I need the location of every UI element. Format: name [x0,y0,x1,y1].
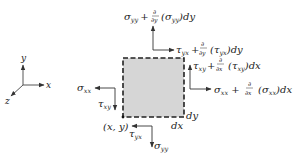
svg-text:∂y: ∂y [199,49,206,57]
svg-text:σyy+: σyy+ [124,11,149,24]
svg-text:∂: ∂ [248,80,251,87]
right-shear-label: τxy+ ∂ ∂x (τxy)dx [193,56,261,73]
origin-label: (x, y) [103,121,129,132]
right-normal-label: σxx+ ∂ ∂x (σxx)dx [214,80,292,97]
svg-text:∂y: ∂y [151,16,158,24]
stress-element-diagram: y x z σyy+ ∂ ∂y (σyy)dy τyx+ ∂ ∂y (τyx)d… [0,0,300,164]
svg-text:∂: ∂ [201,40,204,47]
svg-text:∂: ∂ [219,56,222,63]
svg-text:(τyx)dy: (τyx)dy [210,44,243,57]
left-shear-label: τxy [98,98,111,111]
dx-label: dx [171,120,183,131]
left-normal-label: σxx [77,82,91,95]
svg-text:∂x: ∂x [216,65,223,72]
bottom-shear-label: τyx [129,128,142,141]
top-shear-label: τyx+ ∂ ∂y (τyx)dy [176,40,243,57]
svg-text:(σxx)dx: (σxx)dx [258,84,292,97]
z-axis-arrow [11,85,23,96]
svg-text:∂: ∂ [153,8,156,15]
top-normal-label: σyy+ ∂ ∂y (σyy)dy [124,8,195,24]
svg-text:∂x: ∂x [245,89,252,96]
svg-text:σxx+: σxx+ [214,84,240,97]
coordinate-axes: y x z [4,53,51,106]
svg-text:τxy+: τxy+ [193,60,215,73]
x-axis-label: x [46,80,51,90]
dy-label: dy [186,110,198,121]
svg-text:τyx+: τyx+ [176,44,199,57]
bottom-normal-label: σyy [154,140,169,153]
svg-text:(σyy)dy: (σyy)dy [161,11,195,24]
z-axis-label: z [4,96,10,106]
y-axis-label: y [20,53,27,63]
differential-element [123,58,184,117]
origin-point [122,116,125,119]
svg-text:(τxy)dx: (τxy)dx [228,60,261,73]
